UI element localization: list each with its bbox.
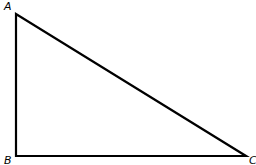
triangle-diagram: A B C [0,0,256,165]
vertex-label-a: A [3,0,12,13]
triangle-abc [16,14,246,156]
vertex-label-b: B [4,154,12,165]
vertex-label-c: C [249,154,256,165]
